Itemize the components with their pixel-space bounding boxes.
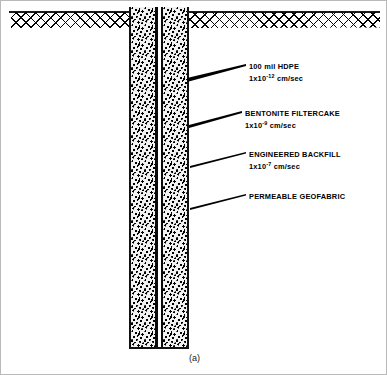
engineered-backfill-left xyxy=(131,7,155,349)
callout-bentonite-title: BENTONITE FILTERCAKE xyxy=(245,109,340,118)
callout-hdpe-value: 1x10-12 cm/sec xyxy=(249,73,303,84)
callout-backfill-units: cm/sec xyxy=(271,162,300,171)
callout-backfill-value: 1x10-7 cm/sec xyxy=(249,161,341,172)
soil-hatching-right xyxy=(188,12,380,28)
leader-line-geofabric xyxy=(190,194,246,210)
figure-caption: (a) xyxy=(1,353,387,363)
callout-bentonite-value: 1x10-9 cm/sec xyxy=(245,120,340,131)
trench-bottom xyxy=(129,347,189,349)
callout-hdpe-mantissa: 1x10 xyxy=(249,74,266,83)
leader-line-hdpe xyxy=(187,64,246,82)
callout-backfill-title: ENGINEERED BACKFILL xyxy=(249,150,341,159)
callout-hdpe-units: cm/sec xyxy=(275,74,304,83)
bentonite-filtercake-layer xyxy=(161,7,164,349)
soil-hatching-left xyxy=(11,12,130,28)
leader-line-backfill xyxy=(190,152,246,168)
callout-bentonite: BENTONITE FILTERCAKE 1x10-9 cm/sec xyxy=(245,108,340,131)
callout-bentonite-mantissa: 1x10 xyxy=(245,121,262,130)
trench-wall-right xyxy=(187,7,189,349)
callout-hdpe-exponent: -12 xyxy=(266,73,274,79)
trench-wall-left xyxy=(129,7,131,349)
callout-geofabric: PERMEABLE GEOFABRIC xyxy=(249,191,345,202)
callout-backfill-mantissa: 1x10 xyxy=(249,162,266,171)
callout-geofabric-title: PERMEABLE GEOFABRIC xyxy=(249,192,345,201)
callout-backfill: ENGINEERED BACKFILL 1x10-7 cm/sec xyxy=(249,149,341,172)
cutoff-wall-cross-section-figure: 100 mil HDPE 1x10-12 cm/sec BENTONITE FI… xyxy=(0,0,387,375)
cutoff-wall-trench xyxy=(129,7,189,349)
leader-line-bentonite xyxy=(189,111,242,128)
callout-hdpe-title: 100 mil HDPE xyxy=(249,62,299,71)
leader-lines xyxy=(1,1,387,375)
callout-hdpe: 100 mil HDPE 1x10-12 cm/sec xyxy=(249,61,303,84)
callout-bentonite-units: cm/sec xyxy=(267,121,296,130)
engineered-backfill-right xyxy=(163,7,187,349)
